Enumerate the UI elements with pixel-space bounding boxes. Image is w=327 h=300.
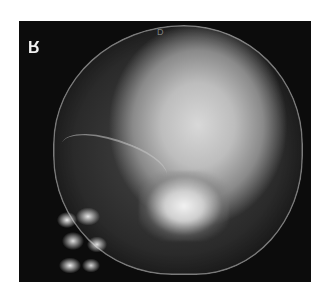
side-marker-label: R: [28, 38, 40, 54]
overprint-label: D: [157, 27, 165, 37]
skull-base: [139, 171, 229, 241]
xray-image: R D: [19, 21, 311, 282]
dentition: [55, 206, 115, 276]
